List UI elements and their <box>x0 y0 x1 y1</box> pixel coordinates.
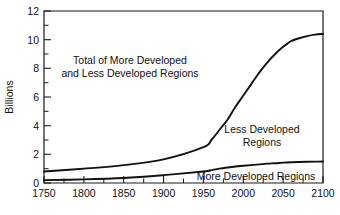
x-tick-label: 2000 <box>232 187 256 199</box>
y-tick-label: 4 <box>33 120 39 132</box>
x-tick-label: 1750 <box>32 187 56 199</box>
annotation-more-developed: More Developed Regions <box>197 170 315 182</box>
annotation-total: Total of More Developed and Less Develop… <box>61 54 198 79</box>
y-tick-label: 2 <box>33 148 39 160</box>
x-tick-label: 1950 <box>192 187 216 199</box>
population-chart-screenshot: 0 2 4 6 8 10 12 1750 1800 1850 1900 1950… <box>0 0 340 215</box>
population-growth-line-chart: 0 2 4 6 8 10 12 1750 1800 1850 1900 1950… <box>0 0 340 215</box>
annotation-total-line1: Total of More Developed <box>73 54 187 66</box>
annotation-less-developed-line1: Less Developed <box>224 123 299 135</box>
y-tick-label: 8 <box>33 62 39 74</box>
x-tick-label: 1800 <box>72 187 96 199</box>
annotation-less-developed-line2: Regions <box>243 136 282 148</box>
x-tick-label: 1850 <box>112 187 136 199</box>
annotation-more-developed-line1: More Developed Regions <box>197 170 315 182</box>
x-tick-label: 2050 <box>271 187 295 199</box>
y-tick-label: 12 <box>27 5 39 17</box>
y-tick-label: 6 <box>33 91 39 103</box>
annotation-total-line2: and Less Developed Regions <box>61 67 198 79</box>
x-tick-label: 1900 <box>152 187 176 199</box>
y-axis-title: Billions <box>3 80 15 113</box>
y-tick-label: 10 <box>27 34 39 46</box>
x-tick-label: 2100 <box>311 187 335 199</box>
